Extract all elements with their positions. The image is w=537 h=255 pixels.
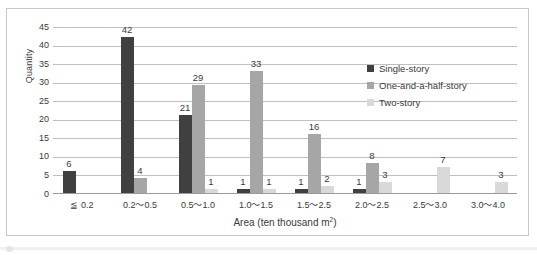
bar-group: 1331 (237, 26, 276, 193)
x-tick-label: 1.0～1.5 (227, 199, 285, 211)
y-tick-label: 35 (29, 60, 49, 69)
bar[interactable] (192, 85, 205, 193)
x-tick-label: 3.0～4.0 (459, 199, 517, 211)
bar-slot: 4 (134, 26, 147, 193)
bar-value-label: 1 (356, 177, 361, 187)
y-tick-label: 45 (29, 23, 49, 32)
chart-legend: Single-storyOne-and-a-half-storyTwo-stor… (367, 60, 517, 111)
bar[interactable] (179, 115, 192, 193)
bar[interactable] (437, 167, 450, 193)
bar-value-label: 6 (66, 159, 71, 169)
bar-value-label: 8 (369, 151, 374, 161)
bar[interactable] (63, 171, 76, 193)
scan-artifact-line (0, 247, 537, 250)
bar-value-label: 42 (122, 25, 133, 35)
y-tick-label: 5 (29, 171, 49, 180)
bar[interactable] (366, 163, 379, 193)
x-tick-label: 2.0～2.5 (343, 199, 401, 211)
bar-slot: 16 (308, 26, 321, 193)
bar-value-label: 1 (298, 177, 303, 187)
bar-slot: 1 (353, 26, 366, 193)
y-tick-label: 25 (29, 97, 49, 106)
legend-item[interactable]: Single-story (367, 60, 517, 77)
bar-slot: 6 (63, 26, 76, 193)
bar-value-label: 29 (193, 73, 204, 83)
bar[interactable] (250, 71, 263, 193)
bar-value-label: 4 (137, 166, 142, 176)
bar-slot: 42 (121, 26, 134, 193)
x-tick-label: ≦ 0.2 (53, 199, 111, 211)
x-axis-title-superscript: 2 (330, 216, 334, 223)
x-axis-line (53, 193, 517, 194)
legend-swatch-icon (367, 65, 374, 72)
bar-value-label: 33 (251, 59, 262, 69)
bar-value-label: 3 (498, 170, 503, 180)
y-tick-label: 15 (29, 134, 49, 143)
legend-label: Two-story (379, 97, 420, 108)
bar-slot: 33 (250, 26, 263, 193)
bar[interactable] (134, 178, 147, 193)
x-tick-label: 0.2～0.5 (111, 199, 169, 211)
chart-frame: Quantity 454035302520151050 642421291133… (6, 8, 529, 236)
y-tick-label: 0 (29, 190, 49, 199)
y-tick-label: 20 (29, 115, 49, 124)
bar-group: 424 (121, 26, 160, 193)
bar[interactable] (121, 37, 134, 193)
legend-swatch-icon (367, 82, 374, 89)
bar-slot (76, 26, 89, 193)
legend-item[interactable]: One-and-a-half-story (367, 77, 517, 94)
bar[interactable] (495, 182, 508, 193)
bar-slot (147, 26, 160, 193)
bar-slot: 1 (263, 26, 276, 193)
bar-value-label: 21 (180, 103, 191, 113)
bar-slot (89, 26, 102, 193)
y-tick-label: 10 (29, 152, 49, 161)
x-axis-tick-labels: ≦ 0.20.2～0.50.5～1.01.0～1.51.5～2.52.0～2.5… (53, 199, 517, 213)
bar-group: 6 (63, 26, 102, 193)
bar-value-label: 2 (324, 174, 329, 184)
x-axis-title: Area (ten thousand m2) (53, 217, 517, 228)
legend-swatch-icon (367, 99, 374, 106)
bar-value-label: 1 (240, 177, 245, 187)
bar-value-label: 16 (309, 122, 320, 132)
y-axis-tick-labels: 454035302520151050 (29, 27, 49, 194)
bar-group: 21291 (179, 26, 218, 193)
bar-slot: 21 (179, 26, 192, 193)
bar[interactable] (308, 134, 321, 193)
bar-value-label: 1 (266, 177, 271, 187)
legend-label: One-and-a-half-story (379, 80, 467, 91)
bar-group: 1162 (295, 26, 334, 193)
y-tick-label: 40 (29, 41, 49, 50)
legend-label: Single-story (379, 63, 429, 74)
x-tick-label: 2.5～3.0 (401, 199, 459, 211)
bar-slot: 1 (205, 26, 218, 193)
bar-slot: 2 (321, 26, 334, 193)
scan-artifact-dot (6, 246, 13, 252)
x-tick-label: 0.5～1.0 (169, 199, 227, 211)
bar-slot: 29 (192, 26, 205, 193)
x-tick-label: 1.5～2.5 (285, 199, 343, 211)
bar-slot: 1 (237, 26, 250, 193)
bar-value-label: 3 (382, 170, 387, 180)
bar[interactable] (379, 182, 392, 193)
bar-slot: 1 (295, 26, 308, 193)
y-tick-label: 30 (29, 78, 49, 87)
bar[interactable] (321, 186, 334, 193)
bar-value-label: 7 (440, 155, 445, 165)
legend-item[interactable]: Two-story (367, 94, 517, 111)
bar-value-label: 1 (208, 177, 213, 187)
